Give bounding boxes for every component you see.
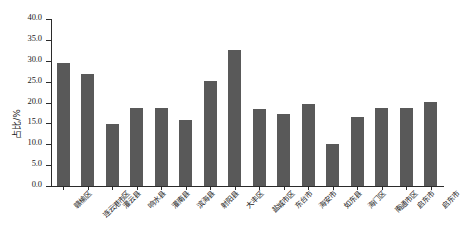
bar xyxy=(228,50,241,186)
bar-slot xyxy=(51,19,76,186)
bar xyxy=(204,81,217,186)
x-tick-label: 启东市 xyxy=(441,190,461,210)
x-tick-label: 响水县 xyxy=(147,190,167,210)
bar-slot xyxy=(198,19,223,186)
bar-slot xyxy=(223,19,248,186)
bar xyxy=(400,108,413,186)
bar xyxy=(253,109,266,186)
y-tick-label: 20.0 xyxy=(28,97,42,106)
y-tick-label: 10.0 xyxy=(28,138,42,147)
bar xyxy=(424,102,437,186)
y-tick-label: 15.0 xyxy=(28,117,42,126)
x-tick-label: 射阳县 xyxy=(220,190,240,210)
bar-slot xyxy=(174,19,199,186)
x-tick-label: 盐城市区 xyxy=(271,190,296,215)
bar-slot xyxy=(321,19,346,186)
x-tick-label: 灌南县 xyxy=(171,190,191,210)
bar-slot xyxy=(125,19,150,186)
bar xyxy=(155,108,168,186)
bar xyxy=(351,117,364,186)
y-tick-label: 5.0 xyxy=(32,159,42,168)
bar xyxy=(302,104,315,186)
y-tick-label: 0.0 xyxy=(32,180,42,189)
bar-slot xyxy=(272,19,297,186)
x-tick-label: 启东市 xyxy=(416,190,436,210)
x-tick-label: 滨海县 xyxy=(196,190,216,210)
bar-slot xyxy=(149,19,174,186)
x-tick-label: 如东县 xyxy=(343,190,363,210)
y-tick-label: 30.0 xyxy=(28,55,42,64)
y-tick-label: 25.0 xyxy=(28,76,42,85)
x-tick-label: 海安市 xyxy=(318,190,338,210)
x-tick-label: 赣榆区 xyxy=(73,190,93,210)
bar-slot xyxy=(76,19,101,186)
x-tick-label: 大丰区 xyxy=(245,190,265,210)
y-axis-title: 占比/% xyxy=(10,109,23,139)
bar xyxy=(179,120,192,186)
x-tick-label: 海门区 xyxy=(367,190,387,210)
bar xyxy=(57,63,70,186)
x-axis-labels: 赣榆区连云港市区灌云县响水县灌南县滨海县射阳县大丰区盐城市区东台市海安市如东县海… xyxy=(51,190,443,248)
bar-slot xyxy=(296,19,321,186)
bar-slot xyxy=(370,19,395,186)
y-tick-label: 40.0 xyxy=(28,13,42,22)
bar-slot xyxy=(247,19,272,186)
y-tick-label: 35.0 xyxy=(28,34,42,43)
bar-slot xyxy=(345,19,370,186)
bar-slot xyxy=(419,19,444,186)
bar xyxy=(130,108,143,186)
bar xyxy=(326,144,339,186)
bar-series xyxy=(51,19,443,186)
bar-slot xyxy=(100,19,125,186)
x-tick-label: 东台市 xyxy=(294,190,314,210)
bar xyxy=(375,108,388,186)
bar xyxy=(277,114,290,186)
bar xyxy=(81,74,94,186)
bar xyxy=(106,124,119,186)
bar-slot xyxy=(394,19,419,186)
